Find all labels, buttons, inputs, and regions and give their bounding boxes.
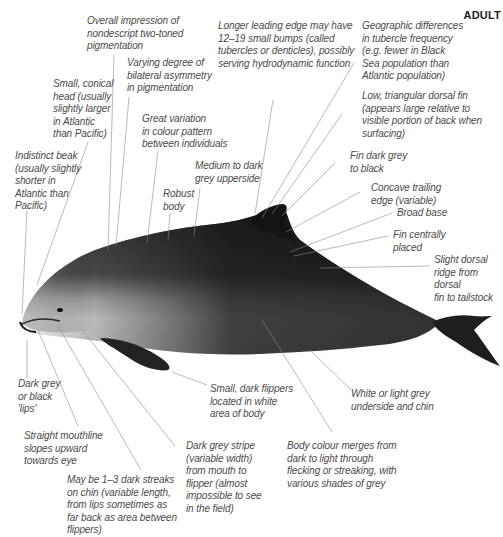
annotation-chin-streaks: May be 1–3 dark streaks on chin (variabl… (67, 474, 177, 537)
annotation-colour-merge: Body colour merges from dark to light th… (287, 440, 397, 490)
annotation-upperside: Medium to dark grey upperside (195, 160, 263, 185)
annotation-leading-edge: Longer leading edge may have 12–19 small… (218, 20, 354, 70)
annotation-indistinct-beak: Indistinct beak (usually slightly shorte… (15, 150, 81, 213)
annotation-bilateral-asymmetry: Varying degree of bilateral asymmetry in… (127, 57, 212, 95)
annotation-grey-stripe: Dark grey stripe (variable width) from m… (186, 440, 262, 515)
annotation-trailing-edge: Concave trailing edge (variable) (371, 182, 441, 207)
annotation-broad-base: Broad base (397, 207, 447, 220)
annotation-colour-variation: Great variation in colour pattern betwee… (142, 113, 227, 151)
annotation-conical-head: Small, conical head (usually slightly la… (53, 78, 113, 141)
annotation-mouthline: Straight mouthline slopes upward towards… (24, 430, 103, 468)
annotation-underside: White or light grey underside and chin (351, 388, 434, 413)
annotation-fin-colour: Fin dark grey to black (350, 150, 407, 175)
annotation-dorsal-ridge: Slight dorsal ridge from dorsal fin to t… (434, 254, 503, 304)
annotation-fin-placement: Fin centrally placed (393, 229, 446, 254)
eye (57, 308, 63, 312)
annotation-flippers: Small, dark flippers located in white ar… (210, 383, 293, 421)
annotation-lips: Dark grey or black 'lips' (18, 378, 60, 416)
annotation-dorsal-fin: Low, triangular dorsal fin (appears larg… (362, 90, 482, 140)
annotation-overall-impression: Overall impression of nondescript two-to… (87, 15, 183, 53)
tail-fluke (432, 315, 500, 366)
annotation-robust-body: Robust body (163, 188, 194, 213)
annotation-geographic-differences: Geographic differences in tubercle frequ… (362, 20, 463, 83)
